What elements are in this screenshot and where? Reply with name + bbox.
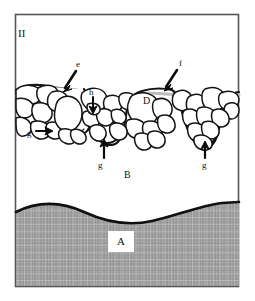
panel-label-ii: II xyxy=(18,28,25,39)
label-e: e xyxy=(76,60,80,69)
label-d: D xyxy=(143,96,150,106)
cell-polygon xyxy=(90,125,106,141)
cell-polygon xyxy=(71,129,87,144)
label-g-right: g xyxy=(202,161,207,170)
figure-illustration xyxy=(0,0,255,301)
label-g-middle: g xyxy=(98,161,103,170)
cell-polygon xyxy=(110,123,127,140)
cell-polygon xyxy=(148,131,165,148)
cell-polygon xyxy=(111,109,126,124)
cell-large-pear xyxy=(54,96,82,131)
cell-polygon xyxy=(158,115,175,133)
label-a: A xyxy=(108,231,134,252)
label-f: f xyxy=(179,59,182,68)
label-h: h xyxy=(89,88,94,97)
label-g-left: g xyxy=(27,129,32,138)
label-b: B xyxy=(124,170,131,180)
figure-panel: II e f h D g g g B A xyxy=(0,0,255,301)
